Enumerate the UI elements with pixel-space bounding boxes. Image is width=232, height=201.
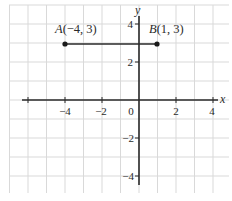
y-tick-label: −2 xyxy=(122,132,134,144)
coordinate-plane: x y −4 −2 0 2 4 4 2 −2 −4 A(−4, 3) B(1, … xyxy=(0,0,232,201)
point-a-letter: A xyxy=(54,22,63,36)
y-tick-label: −4 xyxy=(122,170,134,182)
point-a-label: A(−4, 3) xyxy=(54,22,97,36)
point-a xyxy=(62,41,67,46)
point-a-coords: (−4, 3) xyxy=(63,22,97,36)
origin-label: 0 xyxy=(128,105,134,117)
x-tick-label: −4 xyxy=(59,105,71,117)
x-tick-label: 4 xyxy=(209,105,215,117)
point-b-label: B(1, 3) xyxy=(149,22,184,36)
grid xyxy=(9,5,229,193)
y-tick-label: 4 xyxy=(128,18,134,30)
y-axis-label: y xyxy=(134,3,141,17)
x-tick-label: −2 xyxy=(95,105,107,117)
y-tick-label: 2 xyxy=(128,56,134,68)
x-axis-label: x xyxy=(219,92,226,106)
x-tick-label: 2 xyxy=(173,105,179,117)
point-b-coords: (1, 3) xyxy=(157,22,184,36)
point-b xyxy=(154,41,159,46)
